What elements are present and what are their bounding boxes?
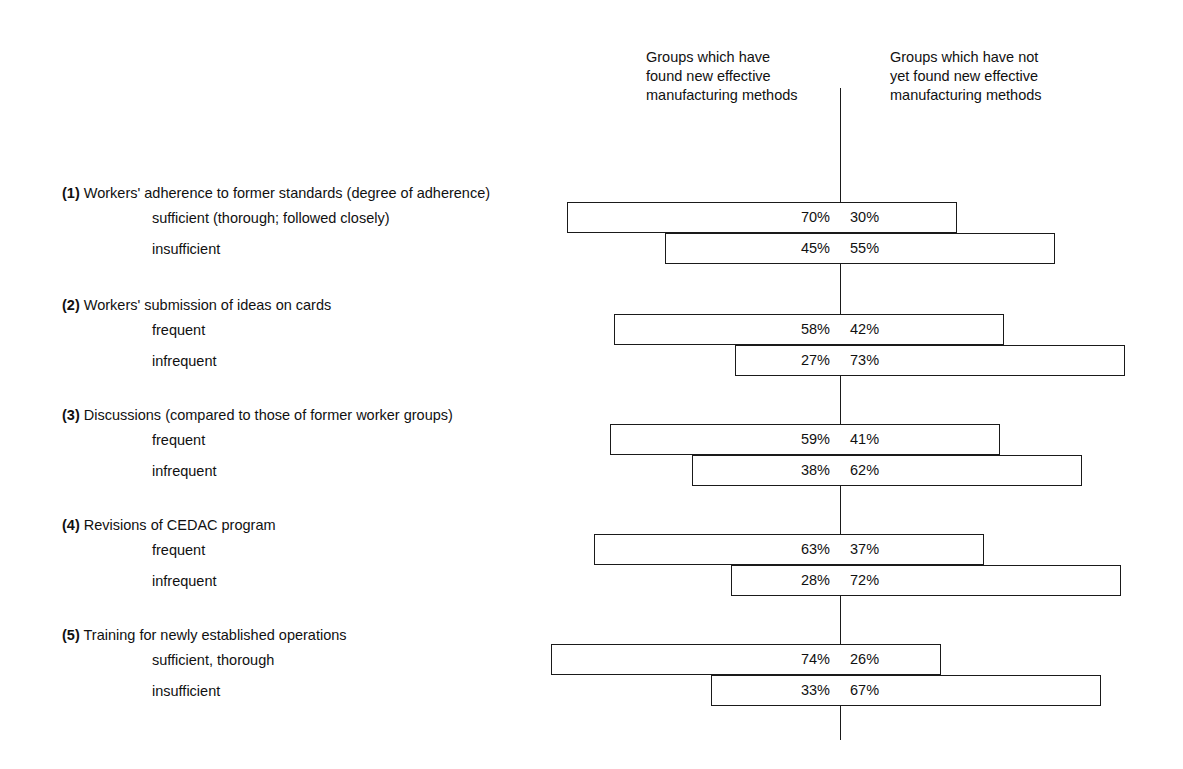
- section-title: (1) Workers' adherence to former standar…: [62, 184, 490, 202]
- section-title-text: Workers' submission of ideas on cards: [80, 297, 332, 313]
- section-number: (3): [62, 407, 80, 423]
- bar-value-left: 70%: [762, 202, 830, 233]
- section-number: (4): [62, 517, 80, 533]
- row-label: frequent: [152, 431, 205, 449]
- bar-value-right: 72%: [850, 565, 918, 596]
- bar-value-left: 59%: [762, 424, 830, 455]
- bar-value-right: 67%: [850, 675, 918, 706]
- section-title: (5) Training for newly established opera…: [62, 626, 347, 644]
- row-label: infrequent: [152, 572, 217, 590]
- bar-value-left: 38%: [762, 455, 830, 486]
- section-title-text: Discussions (compared to those of former…: [80, 407, 453, 423]
- bar-value-right: 73%: [850, 345, 918, 376]
- section-number: (2): [62, 297, 80, 313]
- row-label: infrequent: [152, 462, 217, 480]
- bar-value-left: 63%: [762, 534, 830, 565]
- section-title-text: Workers' adherence to former standards (…: [80, 185, 490, 201]
- bar-value-right: 26%: [850, 644, 918, 675]
- bar-value-right: 37%: [850, 534, 918, 565]
- chart-canvas: Groups which have found new effective ma…: [0, 0, 1183, 769]
- column-header-left: Groups which have found new effective ma…: [646, 48, 836, 105]
- bar-value-left: 33%: [762, 675, 830, 706]
- bar-value-left: 74%: [762, 644, 830, 675]
- section-number: (5): [62, 627, 80, 643]
- bar-value-left: 45%: [762, 233, 830, 264]
- center-axis-line: [840, 88, 841, 740]
- row-label: infrequent: [152, 352, 217, 370]
- bar-value-left: 28%: [762, 565, 830, 596]
- section-title-text: Revisions of CEDAC program: [80, 517, 276, 533]
- section-number: (1): [62, 185, 80, 201]
- section-title-text: Training for newly established operation…: [80, 627, 347, 643]
- bar-value-right: 41%: [850, 424, 918, 455]
- bar-value-right: 42%: [850, 314, 918, 345]
- section-title: (2) Workers' submission of ideas on card…: [62, 296, 331, 314]
- section-title: (4) Revisions of CEDAC program: [62, 516, 276, 534]
- row-label: insufficient: [152, 682, 220, 700]
- row-label: frequent: [152, 321, 205, 339]
- bar-value-left: 27%: [762, 345, 830, 376]
- row-label: sufficient, thorough: [152, 651, 274, 669]
- bar-value-right: 30%: [850, 202, 918, 233]
- section-title: (3) Discussions (compared to those of fo…: [62, 406, 453, 424]
- bar-value-right: 62%: [850, 455, 918, 486]
- bar-value-left: 58%: [762, 314, 830, 345]
- row-label: sufficient (thorough; followed closely): [152, 209, 390, 227]
- column-header-right: Groups which have not yet found new effe…: [890, 48, 1110, 105]
- row-label: insufficient: [152, 240, 220, 258]
- bar-value-right: 55%: [850, 233, 918, 264]
- row-label: frequent: [152, 541, 205, 559]
